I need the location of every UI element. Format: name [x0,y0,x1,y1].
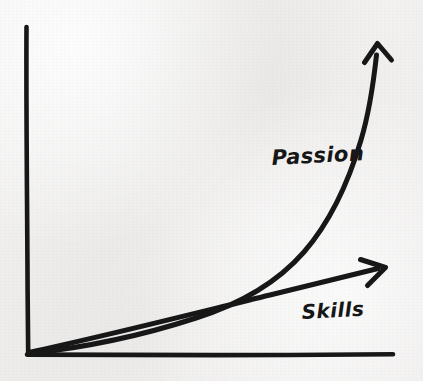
chart-figure [0,0,423,381]
horizontal-axis [27,354,393,355]
vertical-axis [26,27,28,354]
hand-drawn-chart-canvas: Passion Skills [0,0,423,381]
skills-line-label: Skills [301,297,365,324]
passion-curve-label: Passion [271,141,365,170]
